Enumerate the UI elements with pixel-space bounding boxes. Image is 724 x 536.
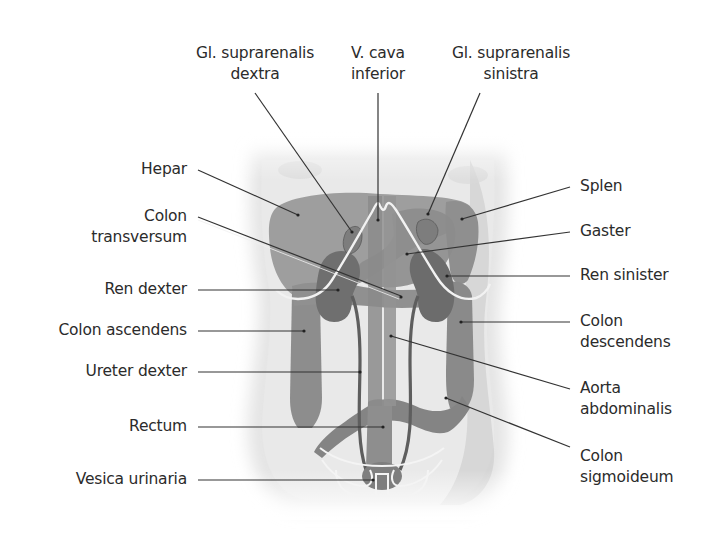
label-line: Colon: [580, 311, 671, 332]
label-line: Gl. suprarenalis: [180, 43, 330, 64]
label-ureter-dexter: Ureter dexter: [86, 361, 188, 382]
label-hepar: Hepar: [141, 159, 187, 180]
label-colon-transversum: Colon transversum: [91, 206, 187, 248]
label-line: V. cava: [328, 43, 428, 64]
label-ren-dexter: Ren dexter: [104, 279, 187, 300]
label-line: Hepar: [141, 159, 187, 180]
label-line: sigmoideum: [580, 467, 673, 488]
vena-cava-shape: [368, 196, 382, 406]
label-colon-sigmoideum: Colon sigmoideum: [580, 446, 673, 488]
label-aorta-abdominalis: Aorta abdominalis: [580, 378, 672, 420]
label-v-cava-inferior: V. cava inferior: [328, 43, 428, 85]
label-line: Colon: [91, 206, 187, 227]
label-line: Vesica urinaria: [76, 469, 187, 490]
label-line: Aorta: [580, 378, 672, 399]
label-line: Gaster: [580, 221, 630, 242]
label-rectum: Rectum: [129, 416, 187, 437]
aorta-shape: [384, 196, 396, 406]
label-colon-descendens: Colon descendens: [580, 311, 671, 353]
label-ren-sinister: Ren sinister: [580, 265, 669, 286]
label-line: Gl. suprarenalis: [436, 43, 586, 64]
label-line: dextra: [180, 64, 330, 85]
label-line: Splen: [580, 176, 622, 197]
label-vesica-urinaria: Vesica urinaria: [76, 469, 187, 490]
label-line: sinistra: [436, 64, 586, 85]
anatomy-figure: Gl. suprarenalis dextra V. cava inferior…: [0, 0, 724, 536]
label-splen: Splen: [580, 176, 622, 197]
label-line: Rectum: [129, 416, 187, 437]
label-gl-suprarenalis-sinistra: Gl. suprarenalis sinistra: [436, 43, 586, 85]
label-line: Ren dexter: [104, 279, 187, 300]
label-line: Colon ascendens: [58, 320, 187, 341]
label-gaster: Gaster: [580, 221, 630, 242]
label-line: inferior: [328, 64, 428, 85]
label-colon-ascendens: Colon ascendens: [58, 320, 187, 341]
label-line: transversum: [91, 227, 187, 248]
label-line: Colon: [580, 446, 673, 467]
label-line: Ren sinister: [580, 265, 669, 286]
label-line: abdominalis: [580, 399, 672, 420]
colon-ascendens-shape: [290, 289, 322, 428]
label-gl-suprarenalis-dextra: Gl. suprarenalis dextra: [180, 43, 330, 85]
label-line: Ureter dexter: [86, 361, 188, 382]
label-line: descendens: [580, 332, 671, 353]
